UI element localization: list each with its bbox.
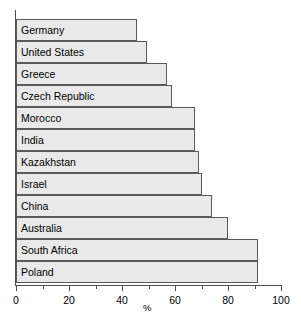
bar-row: India — [16, 129, 195, 151]
x-axis-tick-minor — [202, 285, 203, 289]
bar-row: Kazakhstan — [16, 151, 199, 173]
x-axis-tick-label: 80 — [208, 294, 248, 306]
bar-category-label: Australia — [21, 217, 62, 239]
bar-row: Germany — [16, 19, 137, 41]
x-axis-tick-label: 100 — [261, 294, 301, 306]
x-axis-tick-major — [281, 285, 282, 291]
bar-row: Morocco — [16, 107, 195, 129]
x-axis-tick-major — [16, 285, 17, 291]
x-axis-tick-minor — [43, 285, 44, 289]
bar-category-label: Czech Republic — [21, 85, 95, 107]
bar-category-label: Poland — [21, 261, 54, 283]
bar-row: China — [16, 195, 212, 217]
x-axis-tick-label: 60 — [155, 294, 195, 306]
x-axis-title: % — [143, 302, 151, 313]
x-axis-tick-minor — [255, 285, 256, 289]
bar-row: Israel — [16, 173, 202, 195]
bar-category-label: Kazakhstan — [21, 151, 76, 173]
bar-row: South Africa — [16, 239, 258, 261]
plot-area: GermanyUnited StatesGreeceCzech Republic… — [0, 0, 301, 285]
bar-row: Czech Republic — [16, 85, 172, 107]
bar-category-label: Germany — [21, 19, 64, 41]
bar-row: United States — [16, 41, 147, 63]
bar-category-label: Morocco — [21, 107, 61, 129]
bar-category-label: Greece — [21, 63, 55, 85]
x-axis-tick-major — [122, 285, 123, 291]
x-axis-tick-minor — [149, 285, 150, 289]
bar-category-label: Israel — [21, 173, 47, 195]
x-axis-tick-label: 0 — [0, 294, 36, 306]
bar-chart: GermanyUnited StatesGreeceCzech Republic… — [0, 0, 301, 320]
bar-category-label: China — [21, 195, 48, 217]
x-axis-tick-major — [69, 285, 70, 291]
bar-row: Poland — [16, 261, 258, 283]
bar-category-label: India — [21, 129, 44, 151]
bar-category-label: United States — [21, 41, 84, 63]
x-axis-tick-major — [175, 285, 176, 291]
x-axis-tick-label: 40 — [102, 294, 142, 306]
x-axis-tick-label: 20 — [49, 294, 89, 306]
bar-row: Greece — [16, 63, 167, 85]
x-axis-tick-minor — [96, 285, 97, 289]
bar-category-label: South Africa — [21, 239, 78, 261]
x-axis-tick-major — [228, 285, 229, 291]
bar-row: Australia — [16, 217, 228, 239]
